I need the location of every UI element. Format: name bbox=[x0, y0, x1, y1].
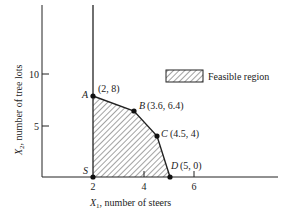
point-B-label: B bbox=[139, 100, 145, 111]
point-D bbox=[167, 174, 172, 179]
point-B-coord: (3.6, 6.4) bbox=[147, 100, 184, 112]
x-tick-label-6: 6 bbox=[192, 181, 197, 192]
point-D-label: D bbox=[170, 160, 179, 171]
point-A bbox=[90, 93, 95, 98]
x-tick-label-4: 4 bbox=[142, 181, 147, 192]
point-C-coord: (4.5, 4) bbox=[170, 128, 199, 140]
lp-feasible-region-chart: 10 5 2 4 6 S A (2, 8) B (3.6, 6.4) C (4.… bbox=[0, 0, 282, 217]
point-C-label: C bbox=[161, 128, 168, 139]
legend: Feasible region bbox=[166, 70, 269, 82]
point-A-coord: (2, 8) bbox=[98, 83, 120, 95]
point-D-coord: (5, 0) bbox=[180, 160, 202, 172]
point-A-label: A bbox=[81, 89, 89, 100]
legend-swatch-hatched bbox=[166, 70, 203, 82]
x-tick-label-2: 2 bbox=[91, 181, 96, 192]
y-axis-label-rest: , number of tree lots bbox=[13, 64, 24, 145]
legend-label: Feasible region bbox=[208, 71, 269, 82]
x-axis-label-rest: , number of steers bbox=[100, 197, 172, 208]
y-axis-label: X2, number of tree lots bbox=[13, 64, 26, 156]
point-B bbox=[131, 108, 136, 113]
x-axis-label: X1, number of steers bbox=[89, 197, 171, 210]
y-tick-label-5: 5 bbox=[34, 121, 39, 132]
point-S-label: S bbox=[83, 165, 88, 176]
point-S bbox=[90, 174, 95, 179]
point-C bbox=[154, 133, 159, 138]
y-tick-label-10: 10 bbox=[29, 69, 39, 80]
